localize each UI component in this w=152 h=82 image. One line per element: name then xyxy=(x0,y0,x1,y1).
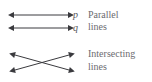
caption-parallel-lines-second-line: lines xyxy=(88,21,107,32)
line-label-q: q xyxy=(73,23,78,33)
caption-intersecting-lines-first-line: Intersecting xyxy=(88,48,135,59)
caption-parallel-lines-first-line: Parallel xyxy=(88,9,119,20)
intersecting-lines-group xyxy=(15,55,69,70)
parallel-lines-group xyxy=(14,15,68,28)
geometry-figure: p q Parallel lines Intersecting lines xyxy=(0,0,152,82)
caption-intersecting-lines-second-line: lines xyxy=(88,61,107,72)
line-label-p: p xyxy=(73,10,78,20)
